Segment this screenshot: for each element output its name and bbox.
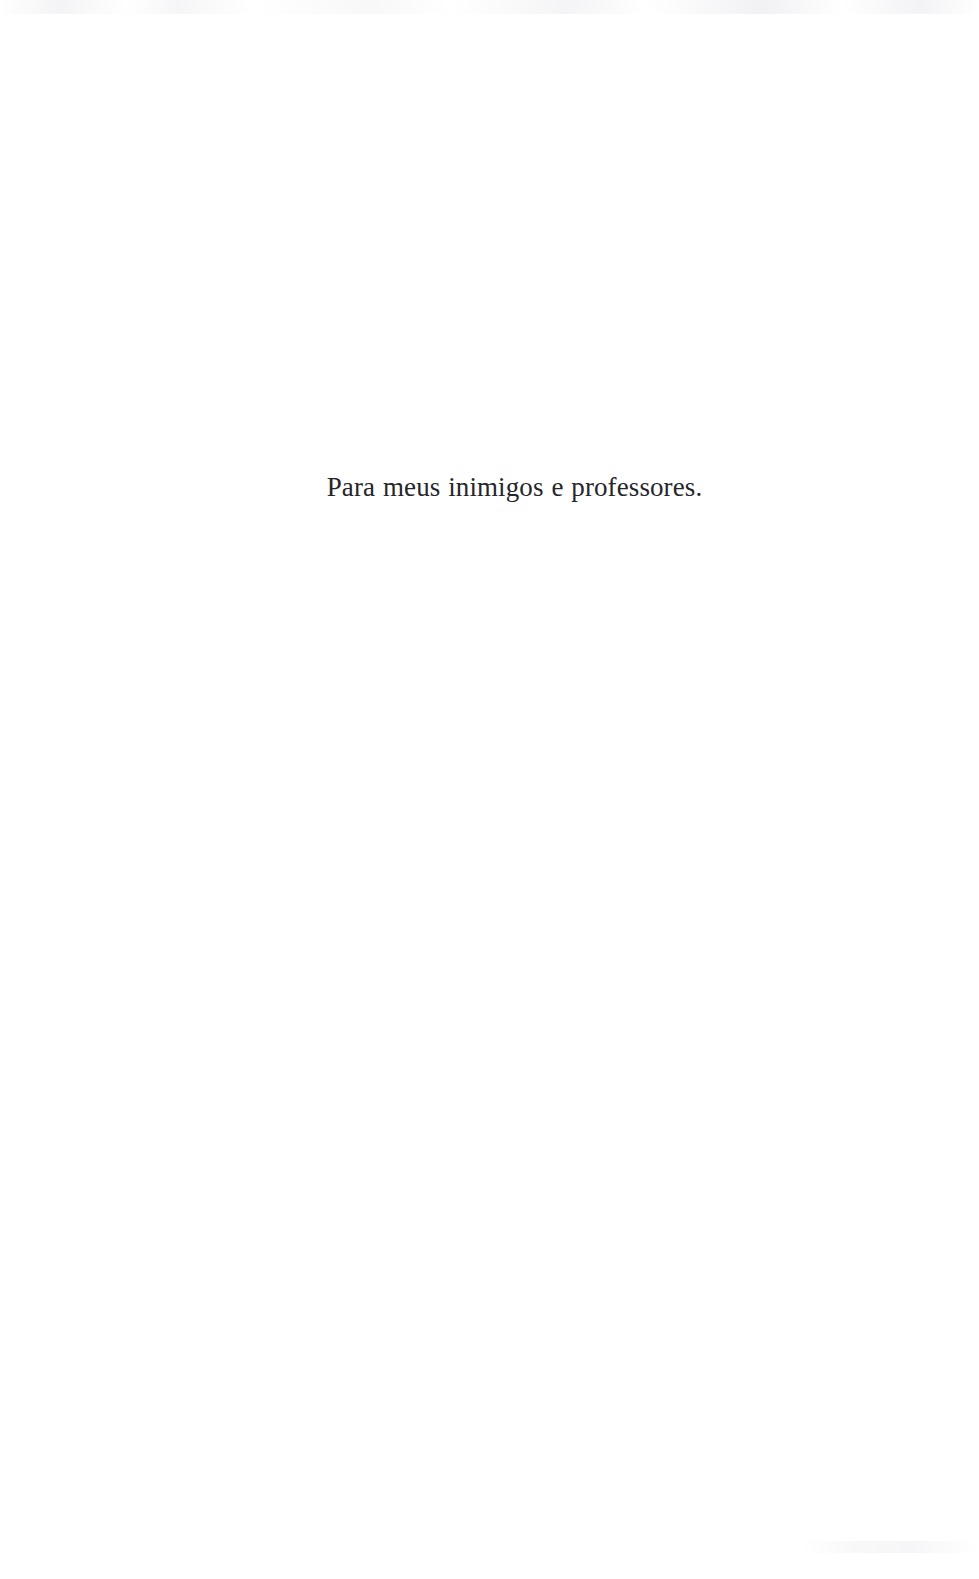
scan-artifact-top-edge bbox=[0, 0, 979, 14]
document-page: Para meus inimigos e professores. bbox=[0, 0, 979, 1579]
dedication-text: Para meus inimigos e professores. bbox=[327, 470, 702, 504]
dedication-block: Para meus inimigos e professores. bbox=[0, 470, 979, 504]
scan-artifact-bottom-edge bbox=[799, 1541, 979, 1553]
